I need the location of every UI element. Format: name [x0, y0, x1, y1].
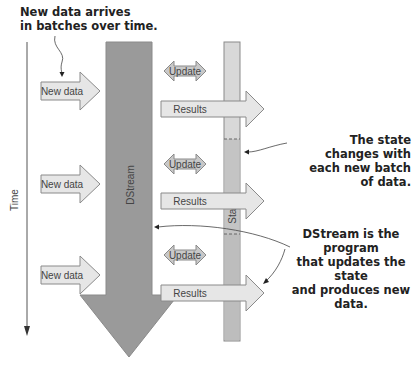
dstream-label: DStream — [125, 165, 136, 204]
annotation-line: The state changes with — [293, 133, 411, 161]
annotation-dstream-program: DStream is the program that updates the … — [288, 227, 414, 311]
annotation-line: DStream is the program — [288, 227, 414, 255]
time-axis-label: Time — [9, 189, 20, 211]
update-label: Update — [169, 250, 202, 261]
leader-line-state — [248, 143, 287, 152]
annotation-line: in batches over time. — [20, 19, 158, 33]
leader-arrowhead-icon — [244, 150, 249, 155]
update-label: Update — [169, 159, 202, 170]
new-data-label: New data — [41, 86, 84, 97]
annotation-line: New data arrives — [20, 5, 158, 19]
leader-line-new-data — [55, 36, 63, 74]
results-label: Results — [173, 288, 206, 299]
annotation-line: and produces new data. — [288, 283, 414, 311]
results-label: Results — [173, 196, 206, 207]
leader-arrowhead-icon — [154, 225, 159, 230]
new-data-label: New data — [41, 270, 84, 281]
time-axis-arrowhead-icon — [24, 326, 30, 336]
results-label: Results — [173, 104, 206, 115]
annotation-line: each new batch of data. — [293, 161, 411, 189]
new-data-label: New data — [41, 179, 84, 190]
annotation-line: that updates the state — [288, 255, 414, 283]
annotation-state-changes: The state changes with each new batch of… — [293, 133, 411, 189]
update-label: Update — [169, 66, 202, 77]
leader-arrowhead-icon — [60, 72, 65, 77]
leader-line-results — [265, 249, 285, 282]
annotation-new-data-arrives: New data arrives in batches over time. — [20, 5, 158, 33]
